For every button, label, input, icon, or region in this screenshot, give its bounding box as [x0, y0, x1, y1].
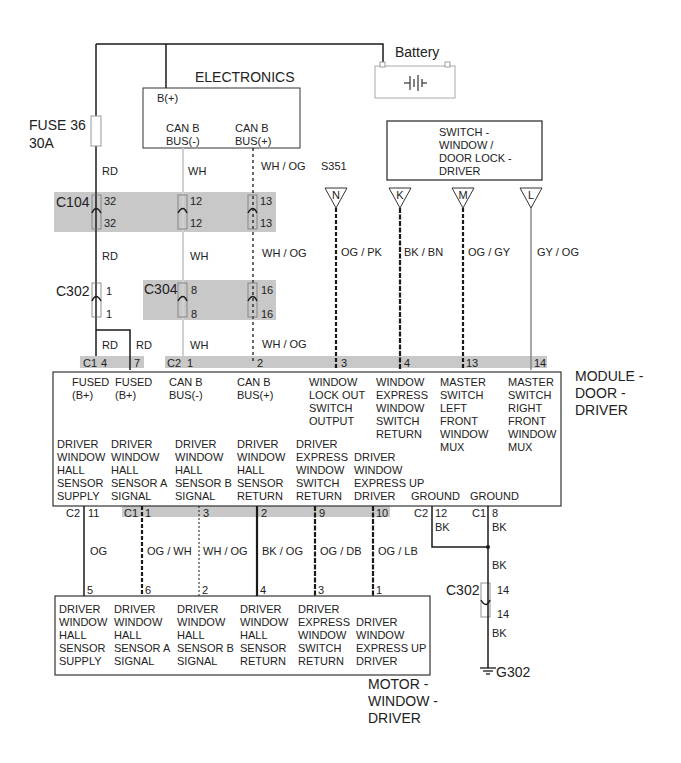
wire-oggy: OG / GY: [468, 246, 510, 259]
module-c2-pin-14: 14: [534, 357, 546, 369]
wire-wh-2: WH: [190, 250, 208, 263]
c104-pin-12-bottom: 12: [190, 217, 202, 229]
module-c1-pin-3: 3: [203, 507, 209, 519]
module-c1-pin-10: 10: [376, 507, 388, 519]
module-title: MODULE - DOOR - DRIVER: [575, 368, 643, 419]
ground-icon: [478, 664, 498, 678]
c304-label: C304: [144, 281, 177, 298]
module-c2-pin-3: 3: [341, 357, 347, 369]
c304-pin-16-bottom: 16: [261, 308, 273, 320]
module-c2-ground-label: C2: [414, 507, 428, 519]
electronics-title: ELECTRONICS: [195, 69, 295, 86]
wire-whog-3: WH / OG: [262, 338, 307, 351]
c302-top-label: C302: [56, 283, 89, 300]
module-c2-bottom-label: C2: [66, 507, 80, 519]
module-label-window-express: WINDOW EXPRESS WINDOW SWITCH RETURN: [376, 376, 428, 441]
motor-title: MOTOR - WINDOW - DRIVER: [368, 676, 438, 727]
wire-whog-bottom: WH / OG: [203, 545, 248, 558]
module-c2-pin-11: 11: [88, 507, 99, 519]
ground-g302-label: G302: [496, 664, 530, 681]
wire-wh-3: WH: [190, 339, 208, 352]
pin-m-triangle: M: [452, 188, 474, 208]
motor-pin-2: 2: [202, 584, 208, 596]
splice-s351: S351: [321, 160, 347, 173]
wire-bk-3: BK: [492, 559, 507, 572]
module-label-master-left: MASTER SWITCH LEFT FRONT WINDOW MUX: [440, 376, 488, 454]
module-c2-top-label: C2: [167, 357, 181, 369]
wire-oglb: OG / LB: [378, 545, 418, 558]
wire-og: OG: [90, 545, 107, 558]
motor-pin-3: 3: [318, 584, 324, 596]
module-label-ground-1: GROUND: [411, 490, 460, 503]
motor-label-express-up: DRIVER WINDOW EXPRESS UP DRIVER: [356, 616, 426, 668]
module-label-fused-bplus-2: FUSED (B+): [115, 376, 152, 402]
c302-bottom-pin-14-top: 14: [497, 584, 509, 596]
module-label-window-lockout: WINDOW LOCK OUT SWITCH OUTPUT: [309, 376, 365, 428]
c304-pin-16-top: 16: [261, 284, 273, 296]
c104-pin-32-top: 32: [104, 195, 116, 207]
c304-pin-8-top: 8: [191, 284, 197, 296]
module-c2-pin-4: 4: [404, 357, 410, 369]
motor-label-hall-b: DRIVER WINDOW HALL SENSOR B SIGNAL: [177, 603, 234, 668]
module-c1-pin-1: 1: [145, 507, 151, 519]
module-c1-top-label: C1: [83, 357, 97, 369]
wire-rd-3: RD: [102, 339, 118, 352]
wire-bk-4: BK: [492, 627, 507, 640]
module-c2-pin-13: 13: [466, 357, 478, 369]
motor-pin-1: 1: [376, 584, 382, 596]
module-c1-pin-2: 2: [261, 507, 267, 519]
wire-whog-1: WH / OG: [261, 160, 306, 173]
c104-pin-12-top: 12: [190, 195, 202, 207]
c302-bottom-label: C302: [446, 582, 479, 599]
wire-bkog: BK / OG: [262, 545, 303, 558]
wire-bk-2: BK: [492, 521, 507, 534]
module-label-ground-2: GROUND: [470, 490, 519, 503]
fuse-rating: 30A: [29, 134, 54, 152]
c104-pin-32-bottom: 32: [104, 217, 116, 229]
electronics-can-minus: CAN B BUS(-): [166, 122, 200, 148]
battery-label: Battery: [395, 44, 439, 61]
wire-gyog: GY / OG: [537, 246, 579, 259]
module-label-hall-a: DRIVER WINDOW HALL SENSOR A SIGNAL: [111, 438, 167, 503]
module-c1-pin-9: 9: [319, 507, 325, 519]
fuse-name: FUSE 36: [29, 116, 86, 134]
wire-wh-1: WH: [188, 165, 206, 178]
module-c1-pin-8: 8: [492, 507, 498, 519]
wire-ogpk: OG / PK: [341, 246, 382, 259]
wire-ogwh: OG / WH: [147, 545, 192, 558]
module-label-hall-b: DRIVER WINDOW HALL SENSOR B SIGNAL: [175, 438, 232, 503]
module-c2-pin-2: 2: [257, 357, 263, 369]
wire-ogdb: OG / DB: [320, 545, 362, 558]
motor-pin-5: 5: [87, 584, 93, 596]
module-c2-pin-1: 1: [187, 357, 193, 369]
c302-top-pin-1-bottom: 1: [106, 308, 112, 320]
module-label-hall-return: DRIVER WINDOW HALL SENSOR RETURN: [237, 438, 285, 503]
wire-whog-2: WH / OG: [262, 247, 307, 260]
motor-label-hall-supply: DRIVER WINDOW HALL SENSOR SUPPLY: [59, 603, 107, 668]
c302-top-pin-1-top: 1: [106, 285, 112, 297]
motor-label-express-return: DRIVER EXPRESS WINDOW SWITCH RETURN: [298, 603, 350, 668]
wire-rd-1: RD: [102, 165, 118, 178]
c104-label: C104: [56, 194, 89, 211]
c104-pin-13-bottom: 13: [260, 217, 272, 229]
module-label-master-right: MASTER SWITCH RIGHT FRONT WINDOW MUX: [508, 376, 556, 454]
wire-rd-4: RD: [136, 339, 152, 352]
pin-l-triangle: L: [520, 188, 542, 208]
motor-label-hall-return: DRIVER WINDOW HALL SENSOR RETURN: [240, 603, 288, 668]
module-c2-pin-12: 12: [435, 507, 447, 519]
module-c1-pin-4: 4: [101, 357, 107, 369]
motor-pin-6: 6: [145, 584, 151, 596]
wire-bkbn: BK / BN: [404, 246, 443, 259]
module-label-fused-bplus-1: FUSED (B+): [72, 376, 109, 402]
pin-k-triangle: K: [389, 188, 411, 208]
module-label-can-minus: CAN B BUS(-): [169, 376, 203, 402]
module-c1-pin-7: 7: [134, 357, 140, 369]
c304-pin-8-bottom: 8: [191, 308, 197, 320]
module-label-hall-supply: DRIVER WINDOW HALL SENSOR SUPPLY: [57, 438, 105, 503]
wire-bk-1: BK: [435, 521, 450, 534]
c302-bottom-pin-14-bottom: 14: [497, 608, 509, 620]
motor-label-hall-a: DRIVER WINDOW HALL SENSOR A SIGNAL: [114, 603, 170, 668]
wire-rd-2: RD: [102, 250, 118, 263]
c104-pin-13-top: 13: [260, 195, 272, 207]
module-c1-ground-label: C1: [472, 507, 486, 519]
